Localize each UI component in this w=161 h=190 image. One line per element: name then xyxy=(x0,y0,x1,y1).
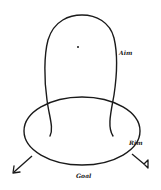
rim-triangle-marker xyxy=(132,154,148,168)
aim-loop xyxy=(45,15,117,136)
diagram-canvas: Aim Rim Goal xyxy=(0,0,161,190)
rim-label: Rim xyxy=(129,140,143,146)
aim-label: Aim xyxy=(119,50,132,56)
center-dot xyxy=(77,46,79,48)
goal-label: Goal xyxy=(76,173,91,179)
rim-ellipse xyxy=(24,97,140,165)
exit-arrow xyxy=(13,156,32,173)
triangle-icon xyxy=(144,160,148,168)
diagram-svg xyxy=(0,0,161,190)
